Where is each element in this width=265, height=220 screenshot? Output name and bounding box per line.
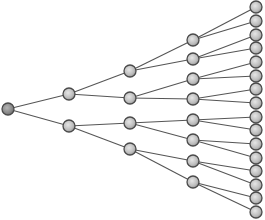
tree-edge: [130, 123, 193, 140]
leaf-node: [250, 138, 262, 150]
leaf-node: [250, 124, 262, 136]
tree-node: [187, 134, 199, 146]
tree-node: [187, 93, 199, 105]
tree-node: [63, 88, 75, 100]
tree-edge: [130, 149, 193, 182]
tree-edge: [193, 182, 256, 212]
tree-node: [187, 34, 199, 46]
tree-edge: [193, 117, 256, 120]
tree-node: [124, 117, 136, 129]
tree-node: [187, 114, 199, 126]
leaf-node: [250, 70, 262, 82]
leaf-node: [250, 179, 262, 191]
leaf-node: [250, 56, 262, 68]
tree-node: [63, 120, 75, 132]
tree-node: [187, 176, 199, 188]
tree-edge: [69, 123, 130, 126]
tree-node: [124, 92, 136, 104]
tree-edge: [8, 94, 69, 109]
tree-edge: [193, 161, 256, 171]
tree-edge: [193, 182, 256, 198]
node-layer: [2, 1, 262, 218]
leaf-node: [250, 42, 262, 54]
leaf-node: [250, 206, 262, 218]
tree-node: [124, 65, 136, 77]
leaf-node: [250, 152, 262, 164]
tree-edge: [193, 140, 256, 144]
tree-edge: [130, 59, 193, 71]
tree-edge: [130, 79, 193, 98]
tree-edge: [130, 120, 193, 123]
leaf-node: [250, 1, 262, 13]
tree-node: [187, 155, 199, 167]
leaf-node: [250, 15, 262, 27]
tree-node: [187, 53, 199, 65]
tree-edge: [8, 109, 69, 126]
root-node: [2, 103, 14, 115]
tree-edge: [130, 149, 193, 161]
tree-edge: [69, 126, 130, 149]
tree-edge: [193, 120, 256, 130]
tree-node: [124, 143, 136, 155]
leaf-node: [250, 83, 262, 95]
tree-edge: [193, 35, 256, 59]
leaf-node: [250, 97, 262, 109]
leaf-node: [250, 165, 262, 177]
leaf-node: [250, 29, 262, 41]
tree-edge: [193, 99, 256, 103]
edge-layer: [8, 7, 256, 212]
tree-edge: [130, 98, 193, 99]
tree-edge: [193, 89, 256, 99]
tree-node: [187, 73, 199, 85]
tree-edge: [193, 161, 256, 185]
tree-edge: [69, 94, 130, 98]
tree-edge: [193, 48, 256, 59]
tree-edge: [130, 40, 193, 71]
binary-tree-diagram: [0, 0, 265, 220]
tree-edge: [69, 71, 130, 94]
leaf-node: [250, 192, 262, 204]
leaf-node: [250, 111, 262, 123]
tree-edge: [193, 140, 256, 158]
